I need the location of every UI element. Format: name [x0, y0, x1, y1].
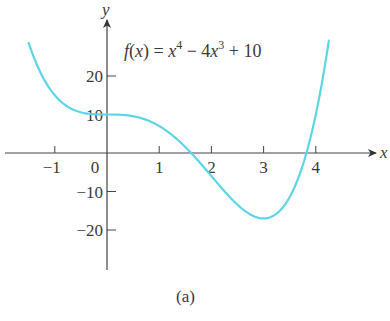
y-tick-label: 20	[86, 67, 103, 86]
figure-caption: (a)	[176, 287, 195, 306]
x-tick-label: 0	[91, 158, 100, 177]
function-curve	[29, 41, 329, 219]
function-plot: −101234 2010−10−20 x y f(x) = x4 − 4x3 +…	[0, 0, 390, 321]
x-tick-label: 3	[259, 158, 268, 177]
x-axis-ticks: −101234	[43, 146, 321, 177]
x-tick-label: 4	[312, 158, 321, 177]
y-axis-label: y	[100, 0, 110, 19]
y-tick-label: −20	[76, 221, 103, 240]
function-equation: f(x) = x4 − 4x3 + 10	[124, 38, 261, 62]
y-tick-label: −10	[76, 183, 103, 202]
x-tick-label: −1	[43, 158, 61, 177]
x-axis-label: x	[379, 143, 388, 162]
x-tick-label: 1	[155, 158, 164, 177]
